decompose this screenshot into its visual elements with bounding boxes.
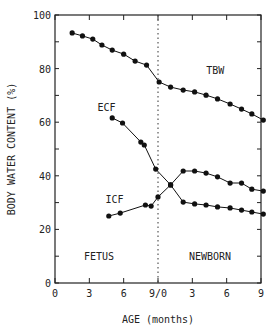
data-point — [153, 167, 158, 172]
x-tick-label: 6 — [121, 288, 127, 299]
data-point — [192, 89, 197, 94]
y-tick-label: 80 — [39, 64, 51, 75]
y-tick-label: 60 — [39, 117, 51, 128]
data-point — [215, 174, 220, 179]
series-label-icf: ICF — [105, 194, 123, 205]
data-point — [239, 106, 244, 111]
data-point — [80, 33, 85, 38]
data-point — [144, 63, 149, 68]
series-icf — [106, 182, 266, 218]
y-tick-label: 40 — [39, 171, 51, 182]
data-point — [228, 180, 233, 185]
y-tick-label: 100 — [33, 10, 51, 21]
data-point — [228, 205, 233, 210]
series-lines — [70, 30, 266, 218]
data-point — [239, 208, 244, 213]
data-point — [215, 204, 220, 209]
data-point — [149, 203, 154, 208]
x-tick-label: 9 — [258, 288, 264, 299]
series-labels: TBWECFICF — [97, 65, 225, 205]
data-point — [203, 202, 208, 207]
data-point — [118, 210, 123, 215]
x-tick-label: 9/0 — [149, 288, 167, 299]
data-point — [70, 30, 75, 35]
data-point — [142, 142, 147, 147]
data-point — [249, 187, 254, 192]
data-point — [143, 202, 148, 207]
y-tick-label: 0 — [45, 278, 51, 289]
data-point — [110, 48, 115, 53]
data-point — [239, 180, 244, 185]
data-point — [261, 188, 266, 193]
data-point — [120, 120, 125, 125]
region-label-fetus: FETUS — [84, 251, 114, 262]
series-label-tbw: TBW — [206, 65, 225, 76]
data-point — [99, 42, 104, 47]
data-point — [215, 96, 220, 101]
data-point — [192, 201, 197, 206]
data-point — [203, 171, 208, 176]
data-point — [181, 87, 186, 92]
body-water-chart: 0369/0369020406080100 TBWECFICF AGE (mon… — [0, 0, 273, 331]
data-point — [168, 84, 173, 89]
data-point — [168, 182, 173, 187]
x-tick-label: 3 — [86, 288, 92, 299]
data-point — [106, 213, 111, 218]
data-point — [261, 212, 266, 217]
x-tick-label: 6 — [224, 288, 230, 299]
data-point — [228, 101, 233, 106]
x-axis-label: AGE (months) — [122, 314, 194, 325]
series-ecf — [110, 115, 266, 193]
data-point — [192, 168, 197, 173]
series-label-ecf: ECF — [97, 102, 115, 113]
data-point — [249, 209, 254, 214]
y-tick-label: 20 — [39, 224, 51, 235]
y-axis-label: BODY WATER CONTENT (%) — [6, 83, 17, 215]
data-point — [249, 111, 254, 116]
data-point — [110, 115, 115, 120]
data-point — [181, 199, 186, 204]
data-point — [121, 52, 126, 57]
data-point — [90, 37, 95, 42]
x-tick-label: 3 — [189, 288, 195, 299]
data-point — [133, 58, 138, 63]
region-label-newborn: NEWBORN — [189, 251, 231, 262]
data-point — [261, 117, 266, 122]
data-point — [203, 93, 208, 98]
x-tick-label: 0 — [52, 288, 58, 299]
data-point — [155, 194, 160, 199]
data-point — [157, 79, 162, 84]
data-point — [181, 168, 186, 173]
